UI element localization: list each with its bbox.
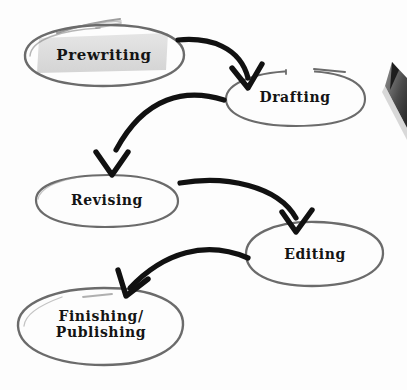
- edge-drafting-revising: [96, 95, 224, 175]
- prewriting-highlight: [37, 33, 168, 73]
- writing-process-diagram: Prewriting Drafting Revising Editing Fin…: [0, 0, 407, 390]
- edge-editing-finishing: [118, 250, 248, 296]
- edge-prewriting-drafting: [178, 39, 262, 88]
- pencil-tip-icon: [382, 62, 407, 140]
- node-editing[interactable]: [246, 222, 383, 286]
- node-revising[interactable]: [36, 175, 178, 227]
- diagram-canvas: [0, 0, 407, 390]
- node-finishing-publishing[interactable]: [18, 288, 183, 365]
- edge-revising-editing: [180, 180, 312, 232]
